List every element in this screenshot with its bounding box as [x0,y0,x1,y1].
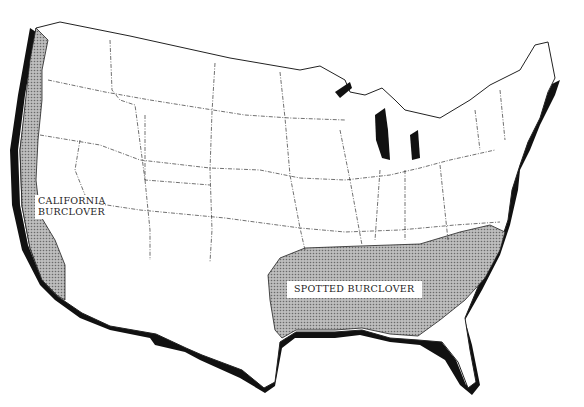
california-burclover-label: CALIFORNIA BURCLOVER [35,195,99,219]
burclover-distribution-map: CALIFORNIA BURCLOVER SPOTTED BURCLOVER [0,0,584,407]
spotted-burclover-label: SPOTTED BURCLOVER [287,281,422,298]
label-line-2: BURCLOVER [38,207,96,218]
